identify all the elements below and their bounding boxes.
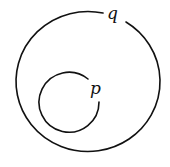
label-p: p bbox=[90, 78, 101, 98]
label-q: q bbox=[107, 3, 118, 23]
outer-curve-q bbox=[16, 11, 160, 151]
nested-curves-diagram: q p bbox=[0, 0, 170, 167]
